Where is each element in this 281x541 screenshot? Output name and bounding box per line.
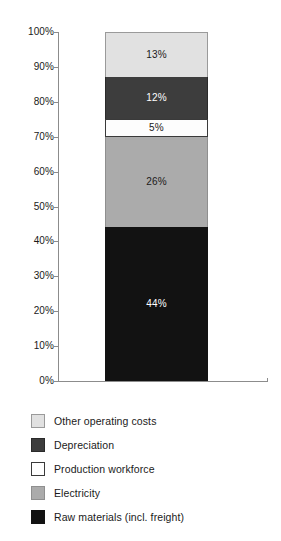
bar-segment-other-operating-costs: 13%	[105, 32, 208, 77]
stacked-bar: 13% 12% 5% 26% 44%	[105, 32, 208, 381]
bar-segment-value: 13%	[146, 50, 167, 60]
legend-swatch-icon	[31, 462, 45, 476]
legend-swatch-icon	[31, 438, 45, 452]
legend-item-label: Electricity	[54, 488, 100, 499]
y-tick-mark	[54, 381, 59, 382]
y-tick-label: 30%	[20, 271, 54, 281]
y-tick-label: 70%	[20, 132, 54, 142]
bar-segment-value: 5%	[149, 123, 164, 133]
y-tick-label: 80%	[20, 97, 54, 107]
y-tick-label: 20%	[20, 306, 54, 316]
y-tick-label: 50%	[20, 202, 54, 212]
x-axis-line	[58, 381, 268, 382]
bar-segment-value: 26%	[146, 177, 167, 187]
y-tick-mark	[54, 137, 59, 138]
y-tick-label: 90%	[20, 62, 54, 72]
y-tick-label: 0%	[20, 376, 54, 386]
y-tick-mark	[54, 102, 59, 103]
legend-swatch-icon	[31, 510, 45, 524]
y-tick-label: 10%	[20, 341, 54, 351]
y-tick-label: 60%	[20, 167, 54, 177]
legend-item-depreciation: Depreciation	[31, 433, 271, 457]
legend-item-label: Depreciation	[54, 440, 114, 451]
y-tick-mark	[54, 241, 59, 242]
bar-segment-production-workforce: 5%	[105, 119, 208, 136]
y-tick-label: 40%	[20, 236, 54, 246]
y-tick-mark	[54, 311, 59, 312]
y-tick-mark	[54, 32, 59, 33]
legend-item-label: Production workforce	[54, 464, 155, 475]
legend-item-raw-materials: Raw materials (incl. freight)	[31, 505, 271, 529]
chart-legend: Other operating costs Depreciation Produ…	[31, 409, 271, 529]
y-tick-label: 100%	[20, 27, 54, 37]
legend-swatch-icon	[31, 486, 45, 500]
legend-item-electricity: Electricity	[31, 481, 271, 505]
bar-segment-value: 44%	[146, 299, 167, 309]
legend-item-production-workforce: Production workforce	[31, 457, 271, 481]
legend-swatch-icon	[31, 414, 45, 428]
legend-item-label: Other operating costs	[54, 416, 157, 427]
legend-item-other-operating-costs: Other operating costs	[31, 409, 271, 433]
x-axis-endcap	[267, 378, 268, 382]
y-tick-mark	[54, 207, 59, 208]
bar-segment-value: 12%	[146, 93, 167, 103]
legend-item-label: Raw materials (incl. freight)	[54, 512, 184, 523]
bar-segment-raw-materials: 44%	[105, 227, 208, 381]
y-tick-mark	[54, 172, 59, 173]
stacked-bar-chart: 100% 90% 80% 70% 60% 50% 40% 30%	[0, 0, 281, 400]
bar-segment-depreciation: 12%	[105, 77, 208, 119]
y-tick-mark	[54, 276, 59, 277]
bar-segment-electricity: 26%	[105, 137, 208, 228]
y-tick-mark	[54, 346, 59, 347]
y-tick-mark	[54, 67, 59, 68]
